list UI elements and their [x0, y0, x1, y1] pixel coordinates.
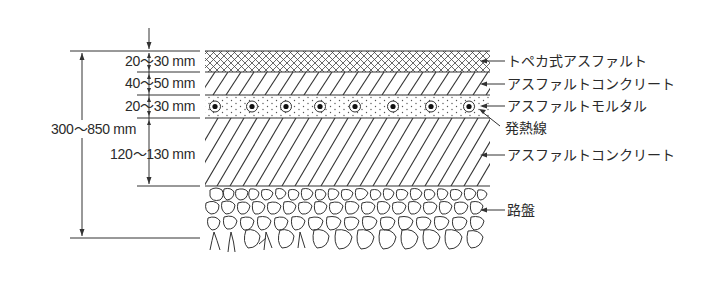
arrow-down-icon — [80, 229, 85, 236]
dimension-layer3: 20〜30 mm — [125, 98, 195, 114]
label-asphalt-concrete-upper: アスファルトコンクリート — [507, 76, 675, 92]
heating-wire-icon — [426, 101, 437, 112]
dimension-total: 300〜850 mm — [51, 121, 136, 137]
dimension-layer4: 120〜130 mm — [110, 146, 195, 162]
heating-wire-icon — [388, 101, 399, 112]
label-roadbed: 路盤 — [507, 202, 535, 218]
label-asphalt-concrete-lower: アスファルトコンクリート — [507, 147, 675, 163]
heating-wire-icon — [247, 101, 258, 112]
label-topeka-asphalt: トペカ式アスファルト — [507, 53, 647, 69]
dimension-layer1: 20〜30 mm — [125, 53, 195, 69]
dimension-layer2: 40〜50 mm — [125, 75, 195, 91]
pavement-section-diagram — [0, 0, 726, 284]
dimension-arrows — [80, 42, 152, 236]
layer-topeka-asphalt — [205, 51, 490, 72]
heating-wire-icon — [210, 101, 221, 112]
heating-wire-icon — [464, 101, 475, 112]
arrow-left-icon — [480, 208, 487, 213]
layer-roadbed — [206, 188, 487, 252]
layer-asphalt-concrete-lower — [165, 118, 517, 186]
layer-asphalt-concrete-upper — [200, 72, 501, 95]
label-asphalt-mortar: アスファルトモルタル — [507, 98, 647, 114]
heating-wire-icon — [281, 101, 292, 112]
heating-wire-icon — [315, 101, 326, 112]
arrow-down-icon — [147, 42, 152, 49]
heating-wire-icon — [350, 101, 361, 112]
arrow-up-icon — [80, 53, 85, 60]
arrow-down-icon — [147, 177, 152, 184]
label-heating-wire: 発熱線 — [505, 120, 547, 136]
